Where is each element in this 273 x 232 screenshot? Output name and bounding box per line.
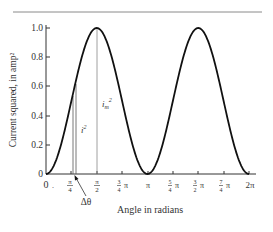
x-tick-label-pi-4-den: 4 xyxy=(68,186,72,194)
i-squared-label: i2 xyxy=(81,124,87,135)
x-tick-label-3-4-den: 4 xyxy=(118,187,121,193)
y-tick-label: 0 xyxy=(38,169,43,179)
x-tick-label-pi-4-num: π xyxy=(68,178,72,186)
x-tick-label-3-4-pi: π xyxy=(124,181,128,190)
x-tick-label-0: 0 xyxy=(44,179,49,190)
delta-theta-label: Δθ xyxy=(81,197,92,207)
x-tick-label-2pi: 2π xyxy=(245,180,255,190)
y-axis-label: Current squared, in amp² xyxy=(8,53,18,148)
x-tick-label-5-4-num: 5 xyxy=(169,179,172,185)
chart: 0 0.2 0.4 0.6 0.8 1.0 Current squared, i… xyxy=(0,0,273,232)
delta-theta-arrowhead xyxy=(75,175,79,181)
y-tick-label: 0.6 xyxy=(31,81,43,91)
x-tick-label-7-4-den: 4 xyxy=(220,187,223,193)
i-m-squared-label: im2 xyxy=(102,97,112,110)
y-tick-label: 0.2 xyxy=(31,140,43,150)
x-tick-label-7-4-pi: π xyxy=(226,181,230,190)
x-tick-label-3-4-num: 3 xyxy=(118,179,121,185)
x-tick-label-pi-2-num: π xyxy=(95,178,99,186)
x-tick-label-5-4-pi: π xyxy=(175,181,179,190)
y-tick-label: 0.4 xyxy=(31,111,43,121)
x-tick-label-pi-2-den: 2 xyxy=(95,186,99,194)
i-squared-curve xyxy=(46,28,249,174)
x-tick-label-3-2-den: 2 xyxy=(194,187,197,193)
x-tick-label-3-2-pi: π xyxy=(200,181,204,190)
y-tick-label: 0.8 xyxy=(31,52,43,62)
x-tick-label-7-4-num: 7 xyxy=(220,179,223,185)
y-tick-label: 1.0 xyxy=(31,23,43,33)
x-tick-label-pi: π xyxy=(146,181,150,190)
delta-theta-arrow-line xyxy=(76,178,86,196)
x-axis-label: Angle in radians xyxy=(117,204,183,215)
x-tick-label-dot: . xyxy=(52,181,54,190)
y-tick-labels: 0 0.2 0.4 0.6 0.8 1.0 xyxy=(31,23,43,179)
x-tick-label-3-2-num: 3 xyxy=(194,179,197,185)
x-tick-label-5-4-den: 4 xyxy=(169,187,172,193)
y-ticks xyxy=(46,28,50,145)
